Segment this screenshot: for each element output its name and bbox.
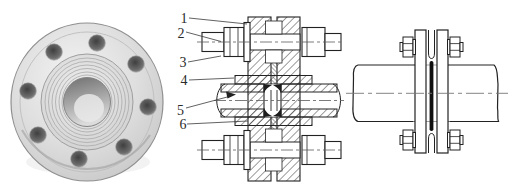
- bolt-hole: [30, 127, 47, 143]
- part-label-6: 6: [180, 117, 187, 132]
- part-label-3: 3: [180, 55, 187, 70]
- bolt-hole: [116, 139, 133, 155]
- stud-nut-top-right: [448, 37, 464, 57]
- nut: [450, 130, 460, 150]
- stud-end: [460, 43, 463, 52]
- bolt-hole: [71, 151, 88, 167]
- flange-photo-panel: [11, 23, 163, 181]
- recess-notch: [266, 50, 283, 63]
- washer: [413, 40, 416, 55]
- gasket-gap-bar: [430, 61, 434, 131]
- bolt-hole: [46, 44, 63, 60]
- part-label-1: 1: [181, 11, 188, 26]
- leader-3: [188, 56, 221, 62]
- nut: [403, 37, 413, 57]
- stud-nut-bottom-right: [448, 130, 464, 150]
- flange-disc-right: [437, 30, 448, 153]
- assembly-panel: [346, 30, 508, 153]
- part-label-4: 4: [181, 73, 188, 88]
- nut: [403, 130, 413, 150]
- right-shaft-wall-bottom: [281, 109, 337, 117]
- recess-notch: [266, 158, 283, 171]
- bolt-slot-top: [429, 30, 435, 59]
- left-shaft-wall-bottom: [221, 109, 264, 117]
- flange-disc-left: [415, 30, 426, 153]
- flange-coupling-figure: 1 2 3 4 5 6: [0, 0, 516, 187]
- stud-nut-top-left: [400, 37, 416, 57]
- leader-5-arrowhead: [226, 92, 236, 99]
- nut: [450, 37, 460, 57]
- leader-1: [189, 18, 247, 24]
- joint-strip-top: [271, 63, 277, 84]
- stud-nut-bottom-left: [400, 130, 416, 150]
- leader-5: [186, 96, 231, 108]
- washer: [413, 133, 416, 148]
- right-shaft-wall-top: [281, 84, 337, 92]
- part-label-2: 2: [178, 26, 185, 41]
- recess-notch: [266, 21, 283, 34]
- recess-notch: [266, 129, 283, 142]
- bolt-hole: [20, 83, 37, 99]
- bolt-hole: [128, 56, 145, 72]
- part-labels: 1 2 3 4 5 6: [177, 11, 188, 132]
- stud-end: [460, 136, 463, 145]
- bore-inner-light: [74, 94, 104, 122]
- cross-section-panel: 1 2 3 4 5 6: [177, 11, 344, 181]
- left-shaft-wall-top: [221, 84, 264, 92]
- bolt-hole: [89, 35, 106, 51]
- joint-strip-bottom: [271, 117, 277, 129]
- figure-canvas: 1 2 3 4 5 6: [0, 0, 516, 187]
- leader-4: [189, 78, 234, 80]
- bolt-hole: [140, 99, 157, 115]
- bolt-slot-bottom: [429, 134, 435, 154]
